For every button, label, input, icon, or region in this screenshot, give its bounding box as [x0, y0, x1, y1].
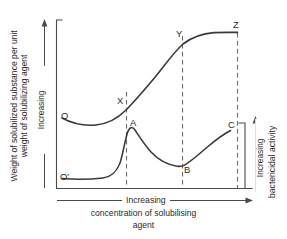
- point-label-X: X: [117, 96, 123, 107]
- y-axis-direction-label: Increasing: [36, 66, 48, 154]
- point-label-A: A: [130, 118, 136, 129]
- plot-axis-frame: [57, 20, 253, 189]
- point-label-B: B: [184, 165, 190, 176]
- point-label-Y: Y: [176, 29, 182, 40]
- point-label-Z: Z: [233, 20, 239, 31]
- y-axis-title: Weight of solubilized substance per unit…: [10, 8, 30, 204]
- y2-axis-title-line2: bactericidal activity: [267, 126, 277, 198]
- x-axis-direction-label: Increasing: [122, 196, 170, 206]
- y2-axis-direction-label: Increasing: [255, 119, 267, 197]
- x-axis-title-line3: agent: [0, 221, 287, 231]
- y-axis-title-line2: weight of solubilizing agent: [19, 55, 29, 158]
- y-axis-title-line1: Weight of solubilized substance per unit: [9, 30, 19, 181]
- dashed-guide-lines: [127, 33, 238, 188]
- point-label-O: O: [61, 111, 68, 122]
- solubilization-bactericidal-activity-chart: Weight of solubilized substance per unit…: [0, 0, 287, 239]
- x-axis-title-line2: concentration of solubilising: [0, 209, 287, 219]
- right-axis-bracket: [239, 123, 245, 189]
- point-label-O-prime: O': [60, 172, 69, 183]
- bactericidal-activity-curve: [62, 128, 231, 180]
- solubilization-curve: [62, 32, 238, 125]
- point-label-C: C: [228, 120, 235, 131]
